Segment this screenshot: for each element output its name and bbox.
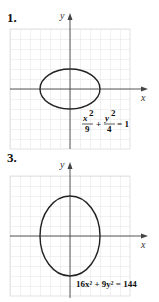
x-axis-arrow-icon bbox=[141, 87, 148, 92]
svg-text:x: x bbox=[82, 113, 88, 123]
x-axis-label: x bbox=[140, 239, 146, 250]
svg-text:2: 2 bbox=[111, 108, 116, 118]
svg-text:= 1: = 1 bbox=[117, 119, 129, 129]
equation-label: 16x² + 9y² = 144 bbox=[76, 279, 137, 289]
y-axis-arrow-icon bbox=[68, 162, 73, 169]
svg-text:+: + bbox=[96, 119, 101, 129]
graph-3: x y 16x² + 9y² = 144 bbox=[0, 150, 159, 302]
x-axis-arrow-icon bbox=[141, 234, 148, 239]
y-axis-label: y bbox=[59, 159, 65, 170]
y-axis-label: y bbox=[59, 10, 65, 21]
x-axis-label: x bbox=[140, 92, 146, 103]
svg-text:2: 2 bbox=[89, 108, 94, 118]
y-axis-arrow-icon bbox=[68, 13, 73, 20]
svg-text:4: 4 bbox=[107, 124, 112, 134]
svg-text:9: 9 bbox=[85, 124, 90, 134]
graph-1: x y x 2 9 + y 2 4 = 1 bbox=[0, 0, 159, 150]
